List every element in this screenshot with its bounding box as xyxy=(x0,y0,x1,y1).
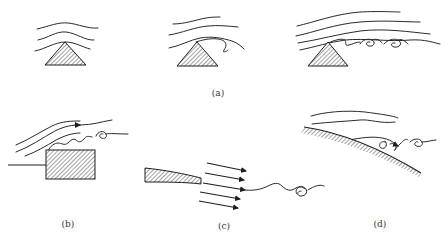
panel-b-step-flow xyxy=(8,120,128,179)
triangle-obstacle xyxy=(308,42,348,66)
tapered-plate xyxy=(145,168,201,184)
panel-a-attached-flow xyxy=(35,23,98,65)
panel-d-curved-surface xyxy=(301,111,436,177)
label-d: (d) xyxy=(374,219,387,229)
panel-a-vortex-train xyxy=(296,12,440,66)
panel-a-separation-onset xyxy=(169,17,244,66)
curved-wall xyxy=(301,127,421,177)
label-b: (b) xyxy=(62,219,75,229)
label-a: (a) xyxy=(212,88,224,98)
label-c: (c) xyxy=(218,221,230,231)
panel-c-trailing-edge xyxy=(145,163,324,208)
step-obstacle xyxy=(46,150,95,179)
triangle-obstacle xyxy=(177,42,218,66)
flow-separation-figure: (a) (b) (c) (d) xyxy=(0,0,448,245)
